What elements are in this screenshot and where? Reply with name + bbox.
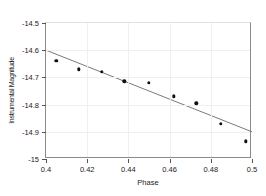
y-axis-label-text: Instrumental Magnitude	[8, 57, 15, 124]
gridline-vertical	[87, 23, 88, 157]
x-axis-tick	[87, 159, 88, 163]
y-axis-tick	[42, 105, 46, 106]
x-axis-tick	[170, 159, 171, 163]
y-axis-tick-label: -15	[28, 155, 39, 164]
gridline-vertical	[128, 23, 129, 157]
plot-area: 0.40.420.440.460.480.5-14.5-14.6-14.7-14…	[45, 22, 251, 158]
figure: Instrumental Magnitude 0.40.420.440.460.…	[0, 0, 266, 196]
regression-line	[46, 23, 252, 159]
x-axis-tick-label: 0.42	[80, 165, 95, 174]
y-axis-tick	[42, 23, 46, 24]
y-axis-tick	[42, 77, 46, 78]
x-axis-tick-label: 0.5	[247, 165, 257, 174]
x-axis-tick	[252, 159, 253, 163]
y-axis-tick	[42, 159, 46, 160]
y-axis-tick-label: -14.9	[22, 127, 39, 136]
y-axis-tick-label: -14.6	[22, 46, 39, 55]
y-axis-tick-label: -14.5	[22, 19, 39, 28]
gridline-vertical	[170, 23, 171, 157]
gridline-horizontal	[46, 50, 250, 51]
x-axis-tick-label: 0.46	[162, 165, 177, 174]
gridline-horizontal	[46, 77, 250, 78]
x-axis-tick	[211, 159, 212, 163]
gridline-horizontal	[46, 132, 250, 133]
y-axis-tick	[42, 50, 46, 51]
y-axis-tick-label: -14.8	[22, 100, 39, 109]
y-axis-tick-label: -14.7	[22, 73, 39, 82]
x-axis-tick-label: 0.44	[121, 165, 136, 174]
x-axis-label: Phase	[45, 178, 251, 187]
x-axis-tick	[46, 159, 47, 163]
gridline-vertical	[211, 23, 212, 157]
x-axis-tick	[128, 159, 129, 163]
y-axis-tick	[42, 132, 46, 133]
x-axis-tick-label: 0.4	[41, 165, 51, 174]
gridline-horizontal	[46, 105, 250, 106]
x-axis-tick-label: 0.48	[203, 165, 218, 174]
y-axis-label: Instrumental Magnitude	[5, 22, 17, 158]
